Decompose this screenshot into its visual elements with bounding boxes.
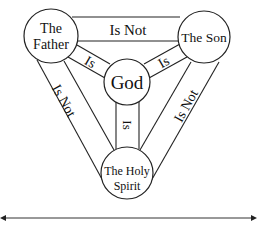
edge-label-son-god: Is <box>156 53 172 71</box>
edge-father-spirit-outer <box>37 60 103 181</box>
father-label-line2: Father <box>33 37 69 52</box>
spirit-label-line1: The Holy <box>104 164 150 178</box>
trinity-diagram: The Father The Son God The Holy Spirit I… <box>0 0 258 231</box>
son-label: The Son <box>181 30 227 45</box>
edge-label-father-god: Is <box>82 53 98 71</box>
node-father <box>24 9 78 63</box>
edge-label-father-son: Is Not <box>109 22 147 38</box>
edge-label-spirit-god: Is <box>120 120 135 129</box>
god-label: God <box>111 72 144 93</box>
father-label-line1: The <box>40 21 62 36</box>
edge-label-father-spirit: Is Not <box>49 82 79 120</box>
spirit-label-line2: Spirit <box>114 179 141 193</box>
edge-label-son-spirit: Is Not <box>171 87 201 125</box>
